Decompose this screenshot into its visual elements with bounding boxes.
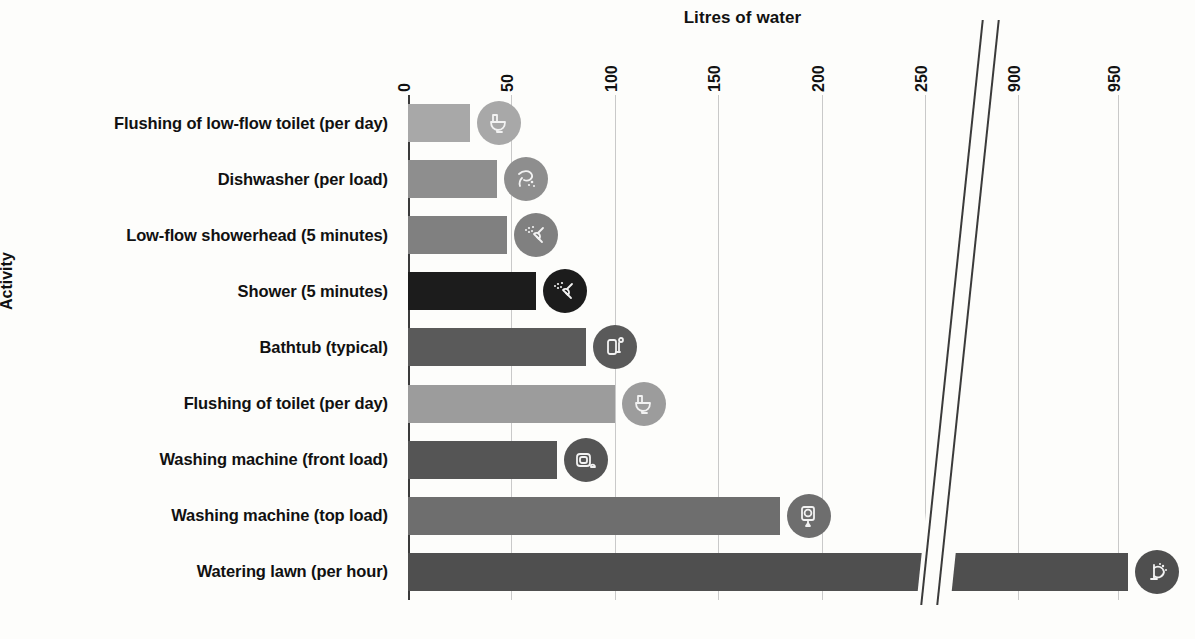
bar[interactable] [408,160,497,198]
bar-row [408,544,1195,600]
x-tick-label: 900 [1006,65,1024,92]
bar[interactable] [408,104,470,142]
x-tick-label: 200 [810,65,828,92]
bar[interactable] [408,216,507,254]
bar[interactable] [408,553,1128,591]
x-tick-label: 0 [396,83,414,92]
category-label: Washing machine (top load) [0,488,398,544]
dishwasher-icon [504,157,548,201]
toilet-icon [477,101,521,145]
bar[interactable] [408,497,780,535]
category-label: Low-flow showerhead (5 minutes) [0,207,398,263]
bar-row [408,488,1195,544]
washing-machine-top-icon [787,494,831,538]
showerhead-icon [514,213,558,257]
x-tick-label: 250 [913,65,931,92]
category-axis-labels: Flushing of low-flow toilet (per day)Dis… [0,95,398,600]
bar[interactable] [408,441,557,479]
category-label: Flushing of toilet (per day) [0,376,398,432]
bar-rows [408,95,1195,600]
water-usage-bar-chart: Litres of water Activity Flushing of low… [0,0,1195,639]
bar-row [408,319,1195,375]
bar-row [408,151,1195,207]
bar-row [408,263,1195,319]
category-label: Bathtub (typical) [0,319,398,375]
bar-row [408,432,1195,488]
x-tick-label: 100 [603,65,621,92]
sprinkler-icon [1135,550,1179,594]
bathtub-icon [593,325,637,369]
bar-row [408,376,1195,432]
bar[interactable] [408,328,586,366]
toilet-icon [622,382,666,426]
bar-row [408,207,1195,263]
x-tick-label: 50 [499,74,517,92]
category-label: Washing machine (front load) [0,432,398,488]
shower-icon [543,269,587,313]
plot-area [408,95,1195,600]
x-axis-tick-labels: 050100150200250900950 [408,20,1195,92]
x-tick-label: 150 [706,65,724,92]
washing-machine-front-icon [564,438,608,482]
bar-row [408,95,1195,151]
bar[interactable] [408,385,615,423]
x-tick-label: 950 [1106,65,1124,92]
category-label: Shower (5 minutes) [0,263,398,319]
category-label: Flushing of low-flow toilet (per day) [0,95,398,151]
category-label: Watering lawn (per hour) [0,544,398,600]
category-label: Dishwasher (per load) [0,151,398,207]
bar[interactable] [408,272,536,310]
